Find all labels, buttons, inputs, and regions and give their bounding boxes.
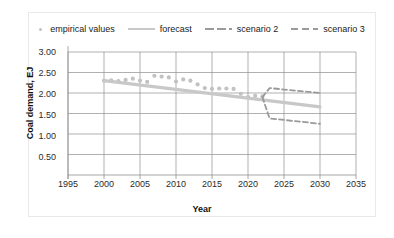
scatter-point bbox=[210, 87, 214, 91]
scenario-line bbox=[262, 88, 320, 97]
gridlines bbox=[68, 46, 356, 179]
scatter-point bbox=[167, 75, 171, 79]
scatter-point bbox=[224, 86, 228, 90]
plot-area bbox=[0, 0, 394, 238]
scatter-point bbox=[239, 92, 243, 96]
scatter-point bbox=[181, 77, 185, 81]
scatter-point bbox=[217, 86, 221, 90]
scatter-point bbox=[145, 80, 149, 84]
scatter-point bbox=[160, 75, 164, 79]
chart-figure: empirical values forecast scenario 2 sce… bbox=[0, 0, 394, 238]
scatter-point bbox=[188, 79, 192, 83]
scatter-point bbox=[203, 86, 207, 90]
scatter-point bbox=[131, 77, 135, 81]
scatter-point bbox=[232, 87, 236, 91]
scatter-point bbox=[152, 74, 156, 78]
data-series bbox=[102, 74, 320, 124]
scatter-point bbox=[174, 79, 178, 83]
scatter-point bbox=[124, 78, 128, 82]
scatter-point bbox=[138, 79, 142, 83]
scatter-point bbox=[196, 82, 200, 86]
